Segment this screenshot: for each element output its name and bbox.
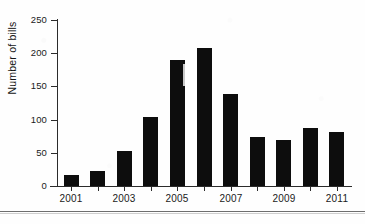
x-tick-2007 <box>231 187 232 191</box>
x-tick-2010 <box>310 187 311 191</box>
bar-2010 <box>303 128 318 186</box>
y-tick-label-50: 50 <box>7 148 47 158</box>
y-tick-label-0: 0 <box>7 181 47 191</box>
x-tick-2003 <box>124 187 125 191</box>
bar-2002 <box>90 171 105 186</box>
y-tick-150 <box>51 86 57 87</box>
bar-2005 <box>170 60 185 186</box>
x-tick-2011 <box>337 187 338 191</box>
bottom-rule-shadow <box>0 213 365 214</box>
x-tick-label-2003: 2003 <box>101 193 147 205</box>
x-tick-label-2001: 2001 <box>48 193 94 205</box>
bar-chart-figure: 050100150200250 200120032005200720092011… <box>0 0 365 224</box>
bar-2004 <box>143 117 158 186</box>
x-tick-2004 <box>151 187 152 191</box>
y-axis-line <box>57 19 58 187</box>
bar-2001 <box>64 175 79 186</box>
bar-2009 <box>276 140 291 186</box>
bar-2007 <box>223 94 238 186</box>
x-axis-line <box>50 186 352 187</box>
bar-2011 <box>329 132 344 186</box>
plot-area <box>58 20 350 186</box>
x-tick-2002 <box>98 187 99 191</box>
x-tick-2006 <box>204 187 205 191</box>
y-tick-250 <box>51 20 57 21</box>
y-tick-50 <box>51 153 57 154</box>
bar-2003 <box>117 151 132 186</box>
bar-2006 <box>197 48 212 186</box>
x-tick-2009 <box>284 187 285 191</box>
bar-2008 <box>250 137 265 186</box>
y-axis-title: Number of bills <box>6 0 18 133</box>
x-tick-label-2005: 2005 <box>154 193 200 205</box>
x-tick-label-2007: 2007 <box>208 193 254 205</box>
x-tick-label-2009: 2009 <box>261 193 307 205</box>
scan-artifact-mark <box>183 64 185 86</box>
y-tick-100 <box>51 120 57 121</box>
x-tick-2001 <box>71 187 72 191</box>
y-tick-0 <box>51 186 57 187</box>
x-tick-2005 <box>177 187 178 191</box>
y-tick-200 <box>51 53 57 54</box>
x-tick-2008 <box>257 187 258 191</box>
x-tick-label-2011: 2011 <box>314 193 360 205</box>
bottom-rule <box>0 211 365 212</box>
